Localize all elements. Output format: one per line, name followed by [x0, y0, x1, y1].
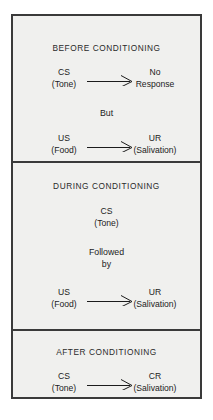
- term-no-response-paren: Response: [109, 79, 201, 91]
- term-ur-during: UR (Salivation): [109, 287, 201, 310]
- term-cs-during-abbr: CS: [13, 206, 200, 218]
- relation-cs-no-response: CS (Tone) No Response: [13, 67, 200, 95]
- connector-followed: Followed: [13, 246, 200, 258]
- term-ur-before: UR (Salivation): [109, 133, 201, 156]
- relation-cs-cr-after: CS (Tone) CR (Salivation): [13, 371, 200, 399]
- term-ur-during-paren: (Salivation): [109, 299, 201, 311]
- term-ur-during-abbr: UR: [109, 287, 201, 299]
- panel-before-conditioning: BEFORE CONDITIONING CS (Tone) No Respons…: [13, 16, 200, 163]
- relation-us-ur-before: US (Food) UR (Salivation): [13, 133, 200, 161]
- relation-us-ur-during: US (Food) UR (Salivation): [13, 287, 200, 315]
- panel-title-during: DURING CONDITIONING: [13, 181, 200, 191]
- term-no-response-abbr: No: [109, 67, 201, 79]
- term-cs-during: CS (Tone): [13, 206, 200, 229]
- term-no-response: No Response: [109, 67, 201, 90]
- panel-after-conditioning: AFTER CONDITIONING CS (Tone) CR (Salivat…: [13, 331, 200, 397]
- connector-by: by: [13, 258, 200, 270]
- term-cr-after-abbr: CR: [109, 371, 201, 383]
- panel-during-conditioning: DURING CONDITIONING CS (Tone) Followed b…: [13, 163, 200, 331]
- classical-conditioning-diagram: BEFORE CONDITIONING CS (Tone) No Respons…: [11, 14, 202, 399]
- term-cr-after: CR (Salivation): [109, 371, 201, 394]
- term-cr-after-paren: (Salivation): [109, 383, 201, 395]
- panel-title-after: AFTER CONDITIONING: [13, 347, 200, 357]
- term-ur-before-abbr: UR: [109, 133, 201, 145]
- term-ur-before-paren: (Salivation): [109, 145, 201, 157]
- term-cs-during-paren: (Tone): [13, 218, 200, 230]
- panel-title-before: BEFORE CONDITIONING: [13, 43, 200, 53]
- connector-but: But: [13, 107, 200, 119]
